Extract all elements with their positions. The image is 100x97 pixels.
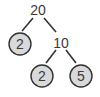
node-left: 2: [16, 36, 24, 52]
node-root: 20: [30, 2, 46, 18]
factor-tree-diagram: 20 2 10 2 5: [0, 0, 100, 97]
node-midleft: 2: [38, 68, 46, 84]
node-midright: 5: [77, 68, 85, 84]
edge-10-5: [66, 50, 76, 63]
edge-10-2: [46, 50, 56, 63]
node-mid: 10: [53, 35, 69, 51]
edge-20-10: [44, 18, 56, 32]
edge-20-2: [22, 18, 33, 31]
